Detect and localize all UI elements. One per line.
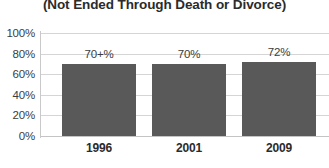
bar-series: 70+% 70% 72%: [40, 33, 329, 136]
y-axis-tick-labels: 100% 80% 60% 40% 20% 0%: [0, 0, 35, 168]
bar-value-label-2001: 70%: [178, 48, 200, 60]
chart-title: (Not Ended Through Death or Divorce): [0, 0, 329, 12]
bar-slot-2001: 70%: [152, 33, 226, 136]
bar-2001[interactable]: [152, 64, 226, 136]
y-tick-label: 60%: [0, 68, 35, 80]
bar-value-label-1996: 70+%: [85, 48, 114, 60]
gridline-0: [40, 136, 329, 137]
y-tick-label: 100%: [0, 27, 35, 39]
bar-slot-1996: 70+%: [62, 33, 136, 136]
y-tick-label: 0%: [0, 130, 35, 142]
x-tick-label-2001: 2001: [176, 141, 202, 155]
x-axis-category-labels: 1996 2001 2009: [40, 141, 329, 163]
chart-screenshot: (Not Ended Through Death or Divorce) 100…: [0, 0, 329, 168]
bar-slot-2009: 72%: [242, 33, 316, 136]
y-tick-label: 20%: [0, 109, 35, 121]
y-tick-label: 80%: [0, 48, 35, 60]
x-tick-label-2009: 2009: [266, 141, 292, 155]
x-tick-label-1996: 1996: [86, 141, 112, 155]
bar-1996[interactable]: [62, 64, 136, 136]
y-tick-label: 40%: [0, 89, 35, 101]
bar-value-label-2009: 72%: [268, 46, 290, 58]
bar-2009[interactable]: [242, 62, 316, 136]
